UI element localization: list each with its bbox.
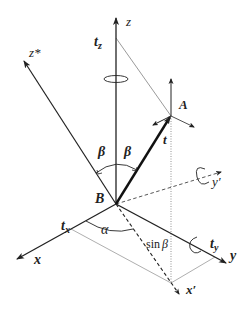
vector-diagram: z z* tz A t β β B y′ α tx x sinβ ty y x′ xyxy=(0,0,246,313)
label-tx: tx xyxy=(61,218,70,235)
label-z-star: z* xyxy=(28,45,41,60)
y-prime-rotation-icon xyxy=(196,168,209,185)
z-star-axis xyxy=(24,61,116,204)
label-x: x xyxy=(33,252,41,267)
label-beta-left: β xyxy=(97,144,106,159)
alpha-arc xyxy=(86,221,133,231)
tz-to-A-line xyxy=(116,38,171,116)
label-B: B xyxy=(94,191,104,206)
label-z: z xyxy=(125,14,131,29)
label-y: y xyxy=(228,248,237,263)
label-beta-right: β xyxy=(123,144,132,159)
label-ty: ty xyxy=(210,236,219,253)
label-t: t xyxy=(163,132,167,147)
ty-to-xprime-line xyxy=(171,257,215,283)
point-A-frame xyxy=(153,79,194,127)
label-tz: tz xyxy=(94,34,102,51)
label-x-prime: x′ xyxy=(185,282,197,297)
t-vector xyxy=(116,117,170,204)
label-y-prime: y′ xyxy=(210,174,221,189)
label-A: A xyxy=(178,97,188,112)
label-sin-beta: sinβ xyxy=(146,237,168,251)
label-alpha: α xyxy=(101,222,109,237)
